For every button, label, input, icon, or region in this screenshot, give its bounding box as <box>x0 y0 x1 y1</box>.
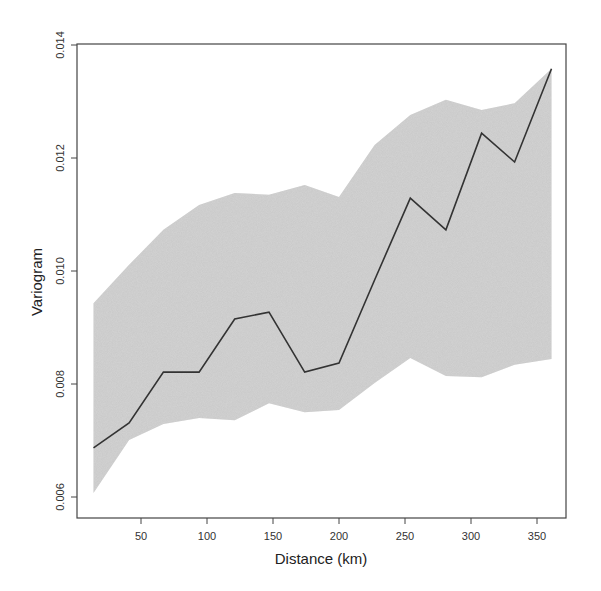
y-tick-label: 0.008 <box>54 370 66 398</box>
x-axis-title: Distance (km) <box>275 550 368 567</box>
y-axis: 0.0060.0080.0100.0120.014 <box>54 31 77 511</box>
x-tick-label: 300 <box>462 530 480 542</box>
x-tick-label: 350 <box>528 530 546 542</box>
x-tick-label: 50 <box>135 530 147 542</box>
envelope-band <box>94 69 552 493</box>
x-axis: 50100150200250300350 <box>135 518 546 542</box>
y-tick-label: 0.014 <box>54 31 66 59</box>
x-tick-label: 250 <box>396 530 414 542</box>
y-axis-title: Variogram <box>28 248 45 316</box>
y-tick-label: 0.010 <box>54 257 66 285</box>
variogram-chart: 50100150200250300350 0.0060.0080.0100.01… <box>0 0 601 591</box>
y-tick-label: 0.012 <box>54 144 66 172</box>
x-tick-label: 100 <box>198 530 216 542</box>
x-tick-label: 200 <box>330 530 348 542</box>
y-tick-label: 0.006 <box>54 483 66 511</box>
x-tick-label: 150 <box>264 530 282 542</box>
envelope-area <box>94 69 552 493</box>
